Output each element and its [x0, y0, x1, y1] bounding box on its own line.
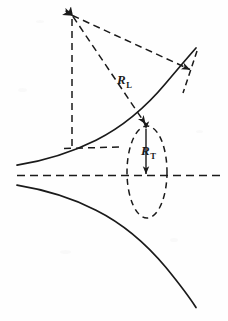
- horizontal-construction-line: [64, 147, 121, 149]
- transverse-radius-symbol: R: [141, 143, 150, 158]
- longitudinal-radius-subscript: L: [126, 80, 132, 90]
- lower-hyperbola-branch: [17, 185, 196, 307]
- longitudinal-radius-symbol: R: [117, 72, 126, 87]
- tangent-segment: [183, 51, 197, 93]
- scan-speckle: [36, 20, 44, 23]
- longitudinal-radius-upper-line: [73, 16, 191, 70]
- figure-canvas: RL RT: [0, 0, 228, 321]
- scan-speckle: [170, 238, 178, 242]
- transverse-section-ellipse: [127, 126, 167, 218]
- scan-speckle: [196, 130, 203, 133]
- diagram-svg: [0, 0, 228, 321]
- transverse-radius-label: RT: [141, 144, 156, 160]
- longitudinal-radius-label: RL: [117, 73, 132, 89]
- scan-speckle: [60, 250, 71, 254]
- transverse-radius-subscript: T: [150, 151, 156, 161]
- scan-speckle: [18, 88, 27, 92]
